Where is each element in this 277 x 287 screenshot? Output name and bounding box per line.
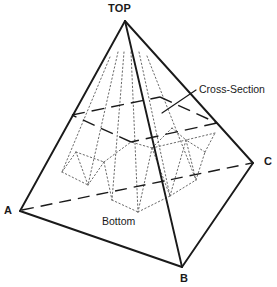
dotted-inner-mid-fold [152,148,170,196]
dotted-inner-right-spur [196,152,205,180]
label-vertex-a: A [4,205,12,216]
label-cross-section: Cross-Section [199,84,265,95]
dotted-inner-left-spur [76,152,88,185]
dotted-inner-right-base [186,140,196,180]
dotted-inner-edge-1 [88,52,118,185]
dotted-right-tip [205,133,215,152]
dotted-inner-edge-4 [139,52,170,196]
pyramid-cross-section-figure: TOP A B C Bottom Cross-Section [0,0,277,287]
pyramid-drawing [0,0,277,287]
edge-a-b [20,211,182,267]
hidden-edge-group [22,163,252,210]
edge-b-c [182,163,253,267]
dotted-inner-edge-2 [112,52,124,200]
dotted-right-tip-2 [186,133,215,140]
label-bottom-face: Bottom [102,216,135,227]
edge-a-c-hidden [22,163,252,210]
label-top: TOP [108,3,131,14]
dotted-inner-mid-left [131,142,152,148]
dotted-upper-right-2 [152,128,172,148]
dotted-inner-edge-6 [62,57,110,172]
edge-top-a [20,21,125,211]
dotted-inner-mid-fold-2 [138,148,152,212]
cross-section-edge-front-right [131,123,217,142]
dotted-inner-right-upper [186,140,205,152]
dotted-inner-left-link [76,152,104,162]
cross-section-edge-front-left [72,115,131,142]
dotted-inner-base-1 [112,200,138,212]
dotted-inner-notch-left [88,162,104,185]
dotted-inner-base-3 [170,180,196,196]
dotted-inner-notch-right [104,162,112,200]
dotted-inner-edge-5 [147,56,196,180]
edge-top-b [125,21,182,267]
dotted-inner-left-top [104,142,131,162]
label-vertex-c: C [264,156,272,167]
label-vertex-b: B [180,273,188,284]
